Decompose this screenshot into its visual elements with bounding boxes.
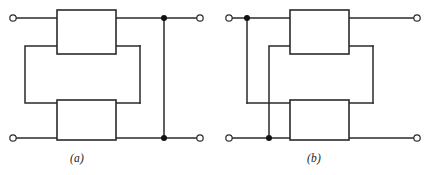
- circuit-b: [226, 10, 420, 141]
- terminal-top-left-b: [226, 15, 232, 21]
- top-network-block-b: [290, 10, 349, 54]
- junction-bottom-left-b: [266, 135, 272, 141]
- terminal-top-right-a: [197, 15, 203, 21]
- wire-middle-loop-b: [269, 46, 290, 138]
- terminal-bottom-right-b: [414, 135, 420, 141]
- terminal-bottom-right-a: [197, 135, 203, 141]
- circuit-a: [10, 10, 203, 141]
- bottom-network-block-a: [57, 100, 116, 140]
- terminal-bottom-left-b: [226, 135, 232, 141]
- junction-bottom-right-a: [161, 135, 167, 141]
- terminal-top-right-b: [414, 15, 420, 21]
- caption-circuit-b: (b): [307, 152, 321, 164]
- circuit-figure: (a) (b): [0, 0, 433, 175]
- junction-top-left-b: [244, 15, 250, 21]
- terminal-bottom-left-a: [10, 135, 16, 141]
- junction-top-right-a: [161, 15, 167, 21]
- wire-middle-loop-a: [25, 46, 57, 103]
- bottom-network-block-b: [290, 100, 349, 140]
- terminal-top-left-a: [10, 15, 16, 21]
- caption-circuit-a: (a): [70, 152, 84, 164]
- circuit-canvas: [0, 0, 433, 175]
- top-network-block-a: [57, 10, 116, 54]
